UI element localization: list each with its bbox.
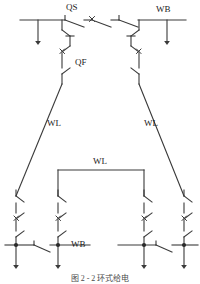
- bottom-branch-4: [182, 190, 192, 266]
- bottom-branch-2: [56, 190, 66, 266]
- bottom-right-busbar: [118, 241, 198, 252]
- wl-right-line: [139, 84, 184, 196]
- figure-caption: 图 2 - 2 环式给电: [0, 272, 200, 283]
- right-riser-branch: [127, 20, 141, 84]
- label-wl-middle: WL: [93, 157, 107, 166]
- junction-dot-icon: [142, 243, 146, 247]
- junction-dot-icon: [14, 243, 18, 247]
- busbar-circuit-breaker: [90, 17, 112, 28]
- label-qf: QF: [75, 58, 87, 67]
- label-wb-bottom: WB: [71, 240, 86, 249]
- left-riser-branch: [60, 20, 74, 84]
- label-wl-left: WL: [47, 119, 61, 128]
- schematic-svg: [0, 0, 200, 284]
- busbar-disconnect-switch-2: [119, 16, 138, 28]
- label-wl-right: WL: [144, 119, 158, 128]
- wl-middle-line: [58, 170, 144, 196]
- junction-dot-icon: [56, 243, 60, 247]
- electrical-schematic-figure: QS QF WB WL WL WL WB 图 2 - 2 环式给电: [0, 0, 200, 284]
- qs-disconnect-switch: [65, 16, 84, 28]
- bottom-branch-3: [142, 190, 152, 266]
- junction-dot-icon: [182, 243, 186, 247]
- label-qs: QS: [66, 3, 78, 12]
- bottom-branch-1: [14, 190, 24, 266]
- label-wb-top: WB: [156, 5, 171, 14]
- wl-left-line: [16, 84, 62, 196]
